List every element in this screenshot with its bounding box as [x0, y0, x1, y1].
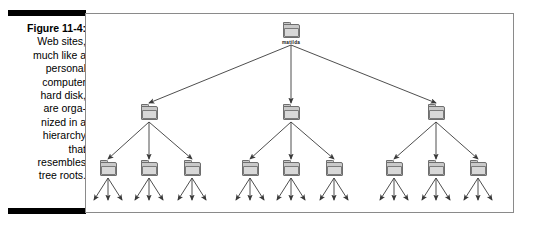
caption-line-4: computer	[8, 76, 86, 89]
tree-edge	[192, 178, 206, 200]
folder-icon	[428, 106, 445, 120]
figure-caption-block: Figure 11-4: Web sites, much like a pers…	[8, 10, 86, 220]
folder-icon	[470, 162, 487, 176]
tree-edge	[320, 178, 334, 200]
folder-icon	[141, 162, 158, 176]
tree-edge	[94, 178, 108, 200]
folder-icon	[242, 162, 259, 176]
tree-edge	[464, 178, 478, 200]
caption-rule-top	[8, 10, 86, 16]
tree-edge	[436, 122, 478, 159]
tree-edge	[394, 178, 408, 200]
caption-line-5: hard disk,	[8, 89, 86, 102]
caption-line-3: personal	[8, 62, 86, 75]
figure-page: Figure 11-4: Web sites, much like a pers…	[0, 0, 539, 230]
caption-line-2: much like a	[8, 49, 86, 62]
tree-edge	[334, 178, 348, 200]
tree-edge	[250, 122, 291, 159]
folder-icon	[283, 106, 300, 120]
figure-caption-text: Figure 11-4: Web sites, much like a pers…	[8, 22, 86, 183]
caption-line-11: tree roots.	[8, 169, 86, 182]
tree-edge	[250, 178, 264, 200]
node-label: matilda	[282, 40, 300, 45]
folder-icon	[141, 106, 158, 120]
tree-edge	[277, 178, 291, 200]
caption-line-7: nized in a	[8, 116, 86, 129]
tree-edge	[149, 122, 192, 159]
caption-line-9: that	[8, 143, 86, 156]
tree-edge	[291, 178, 305, 200]
tree-edge	[149, 178, 163, 200]
figure-number-label: Figure 11-4:	[8, 22, 86, 35]
tree-edge	[436, 178, 450, 200]
folder-icon	[428, 162, 445, 176]
tree-edge	[478, 178, 492, 200]
tree-edge	[108, 122, 149, 159]
tree-edge	[236, 178, 250, 200]
folder-icon	[386, 162, 403, 176]
caption-line-10: resembles	[8, 156, 86, 169]
tree-edge	[178, 178, 192, 200]
tree-edge	[291, 45, 436, 103]
caption-rule-bottom	[8, 208, 86, 214]
tree-edge	[394, 122, 436, 159]
diagram-frame: matilda	[85, 13, 514, 213]
folder-icon	[283, 24, 300, 38]
folder-icon	[283, 162, 300, 176]
tree-edge	[380, 178, 394, 200]
folder-icon	[326, 162, 343, 176]
folder-icon	[184, 162, 201, 176]
tree-edge	[108, 178, 122, 200]
caption-line-6: are orga-	[8, 102, 86, 115]
caption-line-1: Web sites,	[8, 35, 86, 48]
caption-line-8: hierarchy	[8, 129, 86, 142]
tree-edge	[291, 122, 334, 159]
tree-edge	[422, 178, 436, 200]
tree-edge	[149, 45, 291, 103]
folder-icon	[100, 162, 117, 176]
tree-edge	[135, 178, 149, 200]
